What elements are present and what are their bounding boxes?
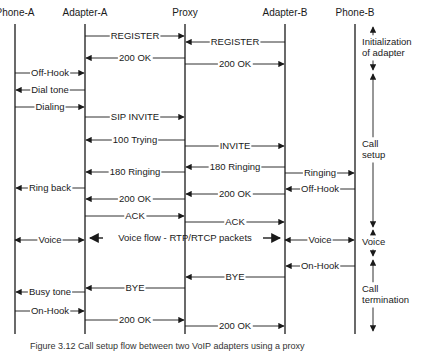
participant-phoneB: Phone-B: [336, 7, 375, 18]
message: 200 OK: [86, 193, 185, 204]
phase-label: of adapter: [362, 47, 405, 58]
message-label: On-Hook: [31, 305, 69, 316]
message: Voice: [285, 234, 354, 245]
message: Dialing: [15, 101, 84, 112]
phase-label: Voice: [362, 236, 385, 247]
message-label: Voice: [38, 234, 61, 245]
phase-label: Call: [362, 138, 378, 149]
figure-caption: Figure 3.12 Call setup flow between two …: [30, 341, 305, 351]
message-label: 200 OK: [219, 58, 252, 69]
message: SIP INVITE: [85, 111, 184, 122]
message-label: ACK: [225, 216, 245, 227]
message-label: Busy tone: [29, 286, 71, 297]
message: BYE: [86, 282, 185, 293]
message-label: Ringing: [304, 167, 336, 178]
message: Ring back: [16, 182, 85, 193]
message-label: Voice: [308, 234, 331, 245]
message: Busy tone: [16, 286, 85, 297]
participant-headers: Phone-AAdapter-AProxyAdapter-BPhone-B: [0, 7, 375, 18]
message-label: REGISTER: [211, 36, 260, 47]
message-label: 200 OK: [219, 320, 252, 331]
message-label: REGISTER: [111, 30, 160, 41]
participant-adapterB: Adapter-B: [262, 7, 307, 18]
phase-bracket: Calltermination: [362, 260, 409, 331]
message: On-Hook: [15, 305, 84, 316]
phase-label: Call: [362, 283, 378, 294]
phase-bracket: Voice: [362, 230, 385, 256]
message: Off-Hook: [286, 183, 355, 194]
message: ACK: [185, 216, 284, 227]
participant-adapterA: Adapter-A: [62, 7, 107, 18]
message: ACK: [85, 210, 184, 221]
message-label: INVITE: [220, 140, 251, 151]
message-label: Off-Hook: [301, 183, 339, 194]
message: 100 Trying: [86, 134, 185, 145]
message: REGISTER: [186, 36, 285, 47]
message-label: Dialing: [35, 101, 64, 112]
phase-bracket: Initializationof adapter: [362, 27, 412, 70]
message-label: On-Hook: [301, 260, 339, 271]
phase-label: setup: [362, 149, 385, 160]
message-label: 200 OK: [119, 314, 152, 325]
message-label: ACK: [125, 210, 145, 221]
message: Voice: [15, 234, 84, 245]
message-label: SIP INVITE: [111, 111, 159, 122]
message-label: BYE: [225, 271, 244, 282]
message-label: Voice flow - RTP/RTCP packets: [118, 232, 252, 243]
participant-proxy: Proxy: [172, 7, 198, 18]
message-label: Ring back: [29, 182, 71, 193]
message: 180 Ringing: [186, 161, 285, 172]
sequence-diagram: Phone-AAdapter-AProxyAdapter-BPhone-B RE…: [0, 0, 425, 351]
message-label: 180 Ringing: [110, 166, 161, 177]
message: 200 OK: [185, 320, 284, 331]
message-label: Off-Hook: [31, 67, 69, 78]
message: BYE: [186, 271, 285, 282]
message-label: 180 Ringing: [210, 161, 261, 172]
message-label: Dial tone: [31, 84, 69, 95]
message-label: 100 Trying: [113, 134, 157, 145]
participant-phoneA: Phone-A: [0, 7, 35, 18]
message: 200 OK: [85, 314, 184, 325]
message: REGISTER: [85, 30, 184, 41]
message: Off-Hook: [15, 67, 84, 78]
phase-label: termination: [362, 294, 409, 305]
message: On-Hook: [286, 260, 355, 271]
message-label: 200 OK: [119, 193, 152, 204]
phase-brackets: Initializationof adapterCallsetupVoiceCa…: [362, 27, 412, 331]
message: 200 OK: [86, 52, 185, 63]
message: Ringing: [285, 167, 354, 178]
message: Voice flow - RTP/RTCP packets: [90, 232, 280, 243]
phase-bracket: Callsetup: [362, 74, 385, 227]
message-label: 200 OK: [119, 52, 152, 63]
message-label: BYE: [125, 282, 144, 293]
message: 200 OK: [186, 188, 285, 199]
message: INVITE: [185, 140, 284, 151]
message: 200 OK: [185, 58, 284, 69]
phase-label: Initialization: [362, 36, 412, 47]
message: Dial tone: [16, 84, 85, 95]
message-label: 200 OK: [219, 188, 252, 199]
message: 180 Ringing: [86, 166, 185, 177]
